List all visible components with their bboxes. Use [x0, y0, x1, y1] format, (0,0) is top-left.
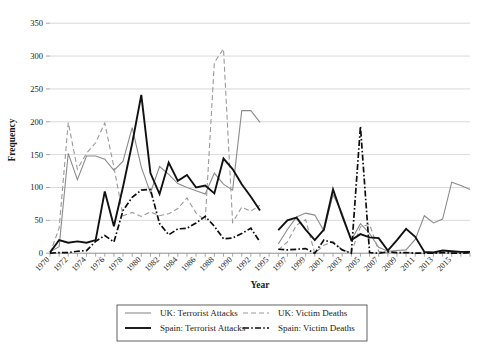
y-axis-title: Frequency: [7, 118, 17, 161]
frequency-line-chart: 050100150200250300350 197019721974197619…: [0, 0, 484, 352]
chart-background: [0, 0, 484, 352]
chart-legend: UK: Terrorist AttacksSpain: Terrorist At…: [117, 305, 367, 341]
y-tick-label: 50: [35, 215, 44, 225]
y-tick-label: 350: [30, 18, 43, 28]
legend-label-2: Spain: Terrorist Attacks: [160, 323, 246, 333]
legend-label-1: UK: Victim Deaths: [278, 308, 348, 318]
y-tick-label: 300: [30, 51, 43, 61]
legend-label-3: Spain: Victim Deaths: [278, 323, 355, 333]
y-tick-label: 100: [30, 182, 43, 192]
y-tick-label: 250: [30, 84, 43, 94]
y-tick-label: 150: [30, 150, 43, 160]
x-axis-title: Year: [251, 280, 271, 290]
y-tick-label: 200: [30, 117, 43, 127]
legend-label-0: UK: Terrorist Attacks: [160, 308, 238, 318]
